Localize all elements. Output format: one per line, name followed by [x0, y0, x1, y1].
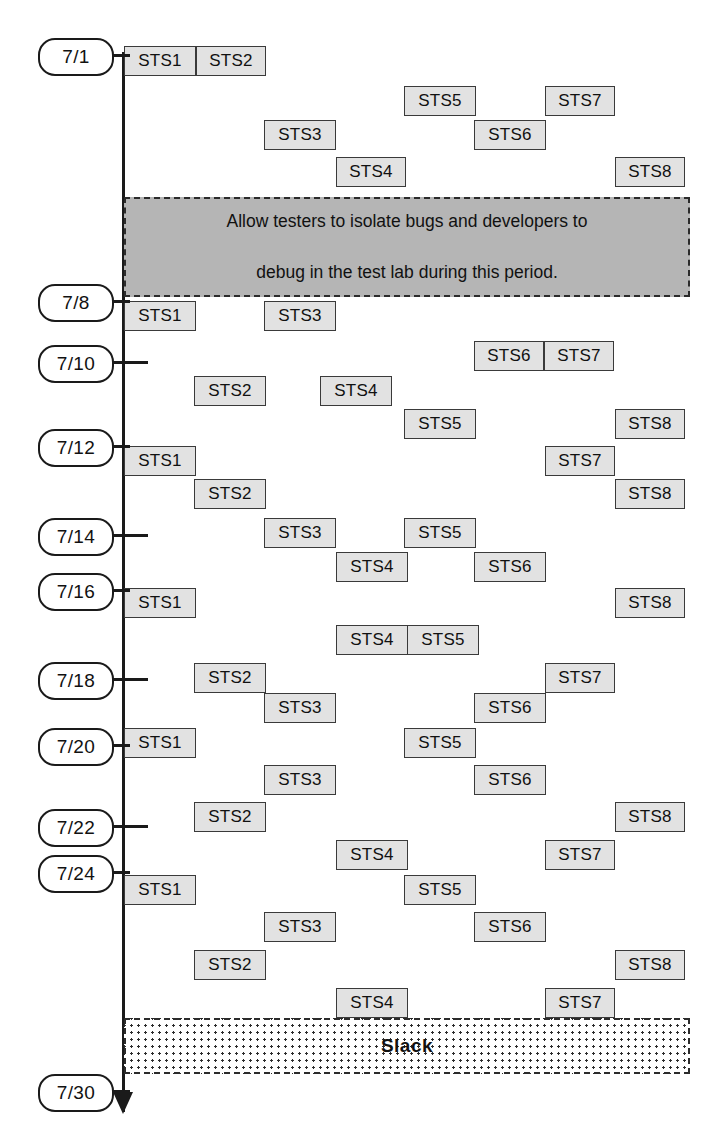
annotation-line-2: debug in the test lab during this period… [215, 260, 600, 285]
task-box-sts1[interactable]: STS1 [124, 875, 196, 905]
date-label-7-14: 7/14 [38, 518, 114, 556]
date-label-7-10: 7/10 [38, 345, 114, 383]
date-label-7-16: 7/16 [38, 573, 114, 611]
tick-7-14 [110, 534, 148, 537]
task-box-sts1[interactable]: STS1 [124, 301, 196, 331]
task-box-sts4[interactable]: STS4 [336, 552, 408, 582]
task-box-sts7[interactable]: STS7 [545, 840, 615, 870]
task-box-sts8[interactable]: STS8 [615, 157, 685, 187]
date-label-7-30: 7/30 [38, 1074, 114, 1112]
task-box-sts8[interactable]: STS8 [615, 950, 685, 980]
date-label-7-1: 7/1 [38, 38, 114, 76]
task-box-sts2[interactable]: STS2 [194, 950, 266, 980]
task-box-sts1[interactable]: STS1 [124, 446, 196, 476]
task-box-sts4[interactable]: STS4 [336, 157, 406, 187]
task-box-sts3[interactable]: STS3 [264, 518, 336, 548]
date-label-7-24: 7/24 [38, 855, 114, 893]
task-box-sts8[interactable]: STS8 [615, 409, 685, 439]
task-box-sts6[interactable]: STS6 [474, 693, 546, 723]
slack-label: Slack [377, 1035, 437, 1057]
task-box-sts5[interactable]: STS5 [407, 625, 479, 655]
task-box-sts4[interactable]: STS4 [336, 988, 408, 1018]
task-box-sts4[interactable]: STS4 [320, 376, 392, 406]
annotation-band: Allow testers to isolate bugs and develo… [124, 197, 690, 297]
task-box-sts3[interactable]: STS3 [264, 120, 336, 150]
task-box-sts8[interactable]: STS8 [615, 588, 685, 618]
task-box-sts3[interactable]: STS3 [264, 693, 336, 723]
task-box-sts6[interactable]: STS6 [474, 552, 546, 582]
task-box-sts7[interactable]: STS7 [544, 341, 614, 371]
task-box-sts5[interactable]: STS5 [404, 518, 476, 548]
timeline-arrow-icon [113, 1092, 133, 1114]
task-box-sts5[interactable]: STS5 [404, 409, 476, 439]
task-box-sts7[interactable]: STS7 [545, 446, 615, 476]
task-box-sts4[interactable]: STS4 [336, 840, 408, 870]
task-box-sts1[interactable]: STS1 [124, 46, 196, 76]
task-box-sts7[interactable]: STS7 [545, 86, 615, 116]
task-box-sts5[interactable]: STS5 [404, 86, 476, 116]
task-box-sts2[interactable]: STS2 [196, 46, 266, 76]
task-box-sts1[interactable]: STS1 [124, 728, 196, 758]
task-box-sts3[interactable]: STS3 [264, 912, 336, 942]
date-label-7-20: 7/20 [38, 728, 114, 766]
task-box-sts6[interactable]: STS6 [474, 912, 546, 942]
timeline-diagram: 7/17/87/107/127/147/167/187/207/227/247/… [0, 0, 720, 1127]
task-box-sts6[interactable]: STS6 [474, 765, 546, 795]
task-box-sts5[interactable]: STS5 [404, 728, 476, 758]
task-box-sts2[interactable]: STS2 [194, 663, 266, 693]
date-label-7-8: 7/8 [38, 284, 114, 322]
task-box-sts7[interactable]: STS7 [545, 663, 615, 693]
task-box-sts7[interactable]: STS7 [545, 988, 615, 1018]
slack-band: Slack [124, 1018, 690, 1074]
task-box-sts3[interactable]: STS3 [264, 765, 336, 795]
task-box-sts6[interactable]: STS6 [474, 120, 546, 150]
task-box-sts2[interactable]: STS2 [194, 802, 266, 832]
date-label-7-18: 7/18 [38, 662, 114, 700]
tick-7-10 [110, 361, 148, 364]
task-box-sts8[interactable]: STS8 [615, 802, 685, 832]
tick-7-22 [110, 825, 148, 828]
task-box-sts6[interactable]: STS6 [474, 341, 544, 371]
task-box-sts1[interactable]: STS1 [124, 588, 196, 618]
date-label-7-22: 7/22 [38, 809, 114, 847]
task-box-sts8[interactable]: STS8 [615, 479, 685, 509]
task-box-sts5[interactable]: STS5 [404, 875, 476, 905]
task-box-sts2[interactable]: STS2 [194, 479, 266, 509]
annotation-line-1: Allow testers to isolate bugs and develo… [215, 209, 600, 234]
tick-7-18 [110, 678, 148, 681]
task-box-sts4[interactable]: STS4 [336, 625, 408, 655]
date-label-7-12: 7/12 [38, 429, 114, 467]
task-box-sts2[interactable]: STS2 [194, 376, 266, 406]
task-box-sts3[interactable]: STS3 [264, 301, 336, 331]
